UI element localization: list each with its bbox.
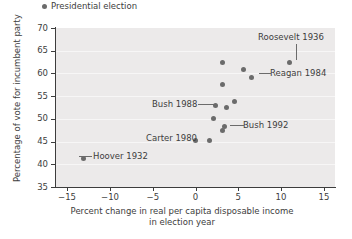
data-point-7 <box>224 105 229 110</box>
data-point-3 <box>211 116 216 121</box>
x-tick-minus10 <box>110 187 111 191</box>
y-tick-label-40: 40 <box>26 160 48 169</box>
data-point-bush-1992 <box>222 124 227 129</box>
y-tick-label-35: 35 <box>26 183 48 192</box>
data-point-9 <box>220 82 225 87</box>
x-tick-minus15 <box>67 187 68 191</box>
x-tick-5 <box>238 187 239 191</box>
x-tick-minus5 <box>153 187 154 191</box>
leader-line-bush-1988 <box>198 104 215 105</box>
y-tick-label-45: 45 <box>26 137 48 146</box>
leader-line-bush-1992 <box>230 125 244 126</box>
data-point-10 <box>220 60 225 65</box>
y-tick-50 <box>51 119 55 120</box>
y-tick-65 <box>51 51 55 52</box>
legend-label-presidential-election: Presidential election <box>51 1 137 11</box>
y-tick-35 <box>51 187 55 188</box>
legend-marker-presidential-election <box>42 4 47 9</box>
y-tick-label-50: 50 <box>26 114 48 123</box>
gridline-55 <box>55 96 335 97</box>
leader-line-roosevelt-1936 <box>296 44 297 60</box>
y-tick-label-70: 70 <box>26 24 48 33</box>
gridline-40 <box>55 164 335 165</box>
gridline-65 <box>55 51 335 52</box>
x-tick-label-5: 5 <box>223 193 253 202</box>
x-tick-15 <box>324 187 325 191</box>
y-tick-label-60: 60 <box>26 69 48 78</box>
x-tick-label-minus5: −5 <box>138 193 168 202</box>
x-tick-label-15: 15 <box>309 193 339 202</box>
x-axis-label-line2: in election year <box>6 217 352 227</box>
y-tick-55 <box>51 96 55 97</box>
leader-line-hoover-1932 <box>79 156 92 157</box>
chart-legend: Presidential election <box>42 1 137 11</box>
y-axis-line <box>55 27 56 188</box>
data-point-reagan-1984 <box>249 75 254 80</box>
data-point-8 <box>232 99 237 104</box>
y-tick-45 <box>51 142 55 143</box>
annotation-reagan-1984: Reagan 1984 <box>270 68 326 78</box>
x-tick-label-10: 10 <box>266 193 296 202</box>
scatter-chart-figure: Presidential election 70 65 60 55 50 45 … <box>0 0 352 239</box>
y-tick-60 <box>51 73 55 74</box>
x-axis-label-line1: Percent change in real per capita dispos… <box>6 206 352 216</box>
y-tick-40 <box>51 164 55 165</box>
annotation-roosevelt-1936: Roosevelt 1936 <box>258 32 324 42</box>
data-point-11 <box>241 67 246 72</box>
annotation-carter-1980: Carter 1980 <box>146 133 197 143</box>
x-tick-label-0: 0 <box>181 193 211 202</box>
x-tick-label-minus10: −10 <box>95 193 125 202</box>
data-point-roosevelt-1936 <box>287 60 292 65</box>
leader-line-reagan-1984 <box>259 73 271 74</box>
annotation-bush-1988: Bush 1988 <box>152 99 197 109</box>
gridline-50 <box>55 119 335 120</box>
y-tick-70 <box>51 28 55 29</box>
y-axis-label: Percentage of vote for incumbent party <box>12 14 22 182</box>
x-tick-0 <box>196 187 197 191</box>
annotation-bush-1992: Bush 1992 <box>243 120 288 130</box>
x-tick-10 <box>281 187 282 191</box>
y-tick-label-55: 55 <box>26 92 48 101</box>
x-tick-label-minus15: −15 <box>52 193 82 202</box>
data-point-hoover-1932 <box>81 156 86 161</box>
y-tick-label-65: 65 <box>26 46 48 55</box>
annotation-hoover-1932: Hoover 1932 <box>93 151 148 161</box>
